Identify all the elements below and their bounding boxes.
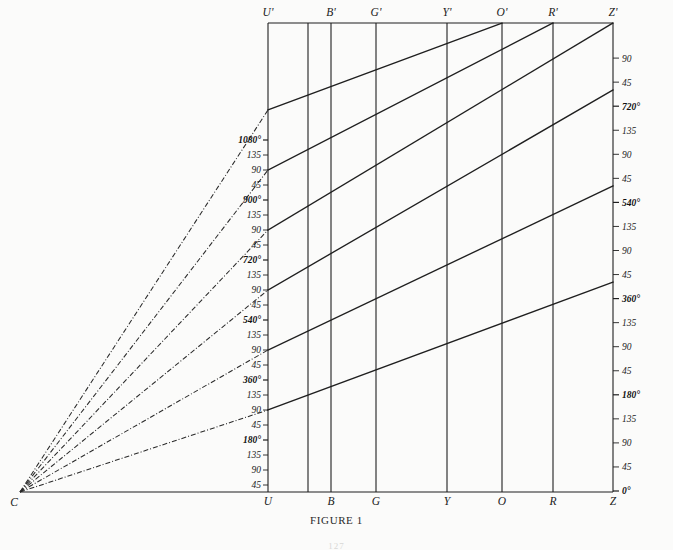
figure-drawing: U'B'G'Y'O'R'Z' UBGYORZ 1080°1359045900°1… (0, 0, 673, 550)
left-tick-label-4: 900° (243, 195, 261, 205)
top-node-label-G-prime: G' (371, 6, 382, 18)
top-node-label-O-prime: O' (497, 6, 508, 18)
left-tick-label-21: 135 (247, 450, 262, 460)
left-tick-label-6: 90 (252, 225, 262, 235)
right-tick-label-4: 90 (622, 150, 632, 160)
band-lines (268, 23, 613, 410)
bottom-node-label-G: G (372, 495, 381, 507)
left-tick-label-19: 45 (252, 420, 262, 430)
left-tick-label-3: 45 (252, 180, 262, 190)
right-tick-label-3: 135 (622, 126, 637, 136)
bottom-node-label-U: U (264, 495, 273, 507)
left-tick-label-22: 90 (252, 465, 262, 475)
band-line-900 (268, 23, 553, 170)
top-node-label-R-prime: R' (547, 6, 558, 18)
bottom-node-labels: UBGYORZ (264, 495, 617, 507)
bottom-node-label-Z: Z (610, 495, 617, 507)
left-tick-label-20: 180° (243, 435, 261, 445)
vertical-gridlines (268, 23, 613, 492)
left-tick-label-23: 45 (252, 480, 262, 490)
right-tick-label-1: 45 (622, 78, 632, 88)
right-axis-ticks (613, 58, 619, 491)
right-tick-label-2: 720° (622, 102, 640, 112)
right-tick-label-9: 45 (622, 270, 632, 280)
right-tick-label-15: 135 (622, 414, 637, 424)
left-tick-label-8: 720° (243, 255, 261, 265)
left-tick-label-0: 1080° (238, 135, 261, 145)
left-tick-label-5: 135 (247, 210, 262, 220)
top-node-label-B-prime: B' (326, 6, 336, 18)
right-tick-label-0: 90 (622, 54, 632, 64)
rays-from-origin (20, 110, 268, 492)
figure-caption: FIGURE 1 (0, 514, 673, 526)
left-tick-label-15: 45 (252, 360, 262, 370)
bottom-node-label-O: O (498, 495, 507, 507)
left-tick-label-16: 360° (242, 375, 261, 385)
band-line-720 (268, 23, 613, 230)
left-tick-label-18: 90 (252, 405, 262, 415)
right-tick-label-8: 90 (622, 246, 632, 256)
left-tick-label-12: 540° (243, 315, 261, 325)
right-tick-label-12: 90 (622, 342, 632, 352)
left-tick-label-17: 135 (247, 390, 262, 400)
bottom-node-label-R: R (548, 495, 556, 507)
right-tick-label-17: 45 (622, 462, 632, 472)
left-tick-label-10: 90 (252, 285, 262, 295)
right-tick-labels: 9045720°1359045540°1359045360°1359045180… (621, 54, 640, 497)
ray-to-720 (20, 230, 268, 492)
left-tick-label-1: 135 (247, 150, 262, 160)
band-line-1080 (268, 23, 502, 110)
top-node-label-Z-prime: Z' (609, 6, 618, 18)
page-folio: 127 (0, 541, 673, 550)
left-tick-label-2: 90 (252, 165, 262, 175)
left-tick-label-14: 90 (252, 345, 262, 355)
right-tick-label-11: 135 (622, 318, 637, 328)
left-tick-label-11: 45 (252, 300, 262, 310)
right-tick-label-13: 45 (622, 366, 632, 376)
top-node-label-U-prime: U' (263, 6, 274, 18)
ray-to-360 (20, 350, 268, 492)
right-tick-label-14: 180° (622, 390, 640, 400)
top-node-label-Y-prime: Y' (443, 6, 452, 18)
left-tick-label-7: 45 (252, 240, 262, 250)
top-node-labels: U'B'G'Y'O'R'Z' (263, 6, 618, 18)
right-tick-label-18: 0° (622, 486, 631, 496)
right-tick-label-6: 540° (622, 198, 640, 208)
left-tick-labels: 1080°1359045900°1359045720°1359045540°13… (238, 135, 261, 490)
band-line-360 (268, 186, 613, 350)
ray-to-180 (20, 410, 268, 492)
figure-container: U'B'G'Y'O'R'Z' UBGYORZ 1080°1359045900°1… (0, 0, 673, 550)
origin-label-c: C (10, 496, 18, 508)
right-tick-label-10: 360° (621, 294, 640, 304)
ray-to-540 (20, 290, 268, 492)
right-tick-label-5: 45 (622, 174, 632, 184)
bottom-node-label-B: B (327, 495, 334, 507)
ray-to-1080 (20, 110, 268, 492)
left-axis-ticks (263, 140, 268, 485)
band-line-180 (268, 282, 613, 410)
left-tick-label-13: 135 (247, 330, 262, 340)
left-tick-label-9: 135 (247, 270, 262, 280)
band-line-540 (268, 90, 613, 290)
bottom-node-label-Y: Y (444, 495, 452, 507)
right-tick-label-7: 135 (622, 222, 637, 232)
ray-to-900 (20, 170, 268, 492)
right-tick-label-16: 90 (622, 438, 632, 448)
